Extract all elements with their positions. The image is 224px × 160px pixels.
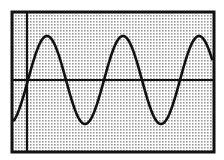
sine-wave-plot [0, 0, 224, 160]
calculator-graph-screen [0, 0, 224, 160]
plot-area-stipple [12, 12, 214, 152]
